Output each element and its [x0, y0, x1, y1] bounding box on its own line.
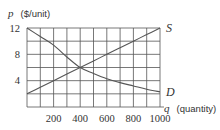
curve-label-s: S	[166, 21, 172, 35]
x-tick-label: 400	[72, 113, 88, 124]
x-axis-unit: (quantity)	[177, 103, 217, 114]
y-axis-unit: ($/unit)	[21, 8, 51, 19]
y-tick-label: 8	[15, 49, 20, 60]
x-axis-ticks: 2004006008001000	[46, 113, 171, 124]
y-tick-label: 4	[15, 75, 21, 86]
y-tick-label: 12	[10, 23, 21, 34]
curve-labels: SD	[165, 21, 175, 99]
x-tick-label: 800	[126, 113, 142, 124]
y-axis-variable: p	[7, 7, 14, 19]
curve-label-d: D	[165, 85, 175, 99]
x-tick-label: 600	[99, 113, 115, 124]
chart-grid	[27, 28, 164, 107]
chart-canvas: 4812 2004006008001000 p ($/unit) q (quan…	[0, 0, 220, 130]
x-tick-label: 1000	[150, 113, 171, 124]
supply-demand-chart: 4812 2004006008001000 p ($/unit) q (quan…	[0, 0, 220, 130]
x-tick-label: 200	[46, 113, 62, 124]
y-axis-ticks: 4812	[10, 23, 21, 87]
x-axis-label: q (quantity)	[164, 97, 216, 116]
x-axis-variable: q	[164, 102, 170, 114]
y-axis-label: p ($/unit)	[7, 2, 50, 21]
